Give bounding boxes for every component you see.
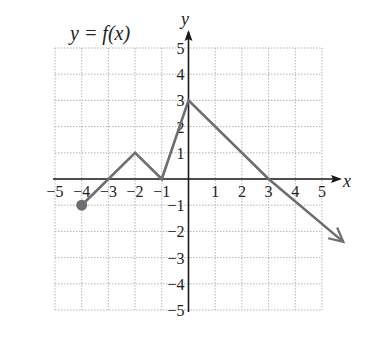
svg-text:−2: −2 <box>167 223 184 240</box>
axes <box>53 30 342 312</box>
svg-text:5: 5 <box>318 183 326 200</box>
svg-text:2: 2 <box>238 183 246 200</box>
svg-text:−1: −1 <box>167 197 184 214</box>
svg-text:−2: −2 <box>127 183 144 200</box>
svg-text:−4: −4 <box>73 183 90 200</box>
graph-title: y = f(x) <box>68 22 130 45</box>
svg-text:3: 3 <box>177 92 185 109</box>
svg-text:4: 4 <box>177 66 185 83</box>
svg-text:1: 1 <box>177 145 185 162</box>
svg-text:−5: −5 <box>167 302 184 319</box>
svg-text:−4: −4 <box>167 276 184 293</box>
svg-text:5: 5 <box>177 40 185 57</box>
function-curve <box>76 100 343 241</box>
svg-text:1: 1 <box>211 183 219 200</box>
y-axis-label: y <box>179 9 189 29</box>
x-axis-label: x <box>342 171 351 191</box>
function-graph: −5−4−3−2−112345−5−4−3−2−112345 y = f(x) … <box>0 0 366 339</box>
svg-text:−5: −5 <box>46 183 63 200</box>
svg-text:3: 3 <box>265 183 273 200</box>
svg-text:−3: −3 <box>167 250 184 267</box>
